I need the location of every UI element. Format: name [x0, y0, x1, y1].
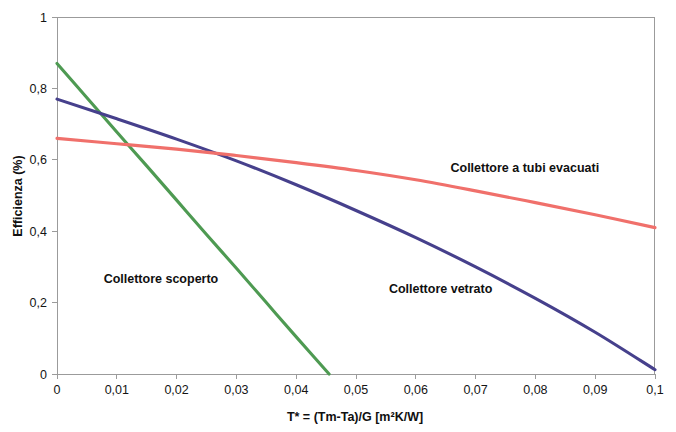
plot-area-background [57, 17, 655, 374]
x-tick-label: 0,08 [523, 383, 547, 397]
x-tick-label: 0,02 [164, 383, 188, 397]
efficiency-line-chart: 00,20,40,60,81 00,010,020,030,040,050,06… [0, 0, 676, 432]
y-axis-title: Efficienza (%) [11, 155, 25, 236]
x-tick-label: 0,04 [284, 383, 308, 397]
series-label-1: Collettore vetrato [389, 282, 493, 296]
y-tick-label: 0,8 [30, 82, 47, 96]
y-tick-label: 1 [40, 11, 47, 25]
chart-canvas: 00,20,40,60,81 00,010,020,030,040,050,06… [0, 0, 676, 432]
x-tick-label: 0,09 [583, 383, 607, 397]
x-tick-label: 0 [54, 383, 61, 397]
y-axis-ticks [52, 17, 57, 374]
y-tick-label: 0,2 [30, 296, 47, 310]
series-label-0: Collettore scoperto [104, 272, 219, 286]
x-tick-label: 0,03 [224, 383, 248, 397]
x-axis-title: T* = (Tm-Ta)/G [m²K/W] [287, 410, 423, 424]
series-label-2: Collettore a tubi evacuati [450, 161, 599, 175]
y-tick-label: 0,6 [30, 153, 47, 167]
x-tick-label: 0,1 [646, 383, 663, 397]
x-tick-label: 0,06 [404, 383, 428, 397]
x-tick-label: 0,01 [105, 383, 129, 397]
y-tick-label: 0 [40, 368, 47, 382]
y-axis-tick-labels: 00,20,40,60,81 [30, 11, 47, 382]
x-tick-label: 0,05 [344, 383, 368, 397]
y-tick-label: 0,4 [30, 225, 47, 239]
x-axis-tick-labels: 00,010,020,030,040,050,060,070,080,090,1 [54, 383, 664, 397]
x-tick-label: 0,07 [463, 383, 487, 397]
